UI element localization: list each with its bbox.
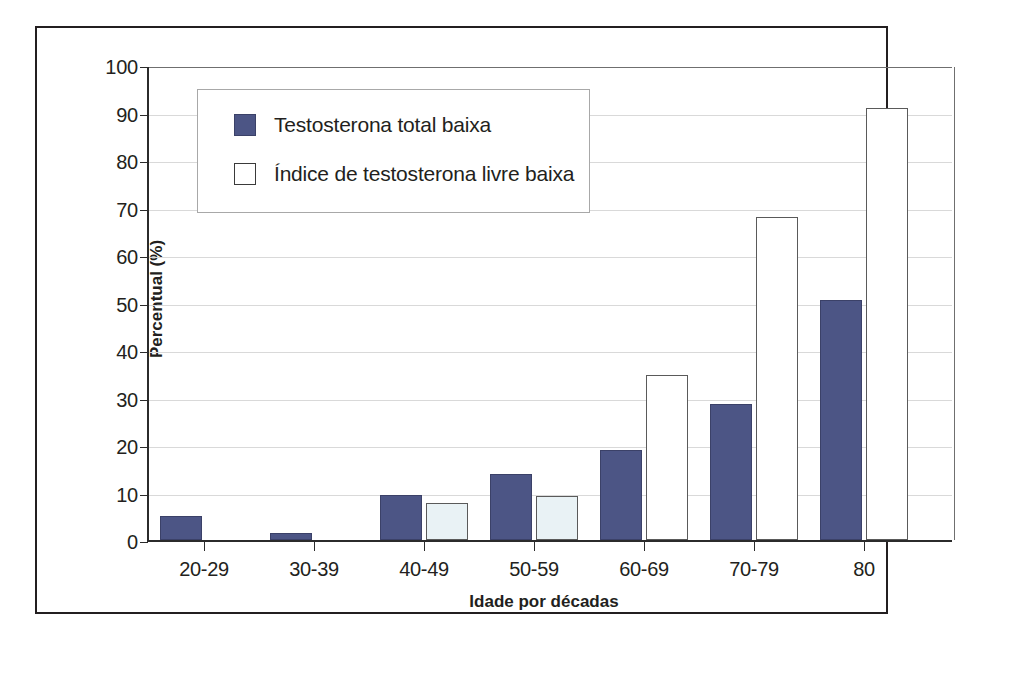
plot-right-edge	[954, 67, 955, 540]
y-tick-label: 40	[116, 341, 138, 364]
y-tick-label: 0	[127, 531, 138, 554]
y-tick-mark	[140, 352, 148, 353]
x-tick-mark	[314, 540, 315, 551]
x-tick-label: 50-59	[509, 558, 559, 581]
y-tick-mark	[140, 495, 148, 496]
y-tick-mark	[140, 542, 148, 543]
x-tick-label: 20-29	[179, 558, 229, 581]
x-tick-mark	[754, 540, 755, 551]
y-tick-label: 80	[116, 151, 138, 174]
chart-legend: Testosterona total baixa Índice de testo…	[197, 89, 590, 213]
y-tick-label: 90	[116, 103, 138, 126]
y-tick-mark	[140, 210, 148, 211]
x-axis-title: Idade por décadas	[149, 592, 939, 612]
legend-swatch-total	[234, 114, 256, 136]
bar-70-79-series-1	[756, 217, 798, 540]
x-tick-label: 30-39	[289, 558, 339, 581]
bar-50-59-series-0	[490, 474, 532, 541]
y-tick-mark	[140, 67, 148, 68]
legend-label-total: Testosterona total baixa	[274, 113, 491, 137]
x-tick-label: 60-69	[619, 558, 669, 581]
y-tick-mark	[140, 305, 148, 306]
legend-swatch-free	[234, 163, 256, 185]
bar-60-69-series-1	[646, 375, 688, 540]
bar-60-69-series-0	[600, 450, 642, 540]
bar-70-79-series-0	[710, 404, 752, 540]
x-tick-mark	[534, 540, 535, 551]
x-tick-mark	[204, 540, 205, 551]
legend-entry-free: Índice de testosterona livre baixa	[234, 162, 574, 186]
y-tick-label: 50	[116, 293, 138, 316]
y-tick-label: 70	[116, 198, 138, 221]
bar-40-49-series-0	[380, 495, 422, 540]
y-tick-mark	[140, 257, 148, 258]
gridline	[149, 257, 952, 258]
y-tick-label: 30	[116, 388, 138, 411]
bar-40-49-series-1	[426, 503, 468, 540]
y-tick-mark	[140, 162, 148, 163]
bar-80-series-1	[866, 108, 908, 540]
y-tick-label: 10	[116, 483, 138, 506]
x-tick-label: 80	[853, 558, 875, 581]
y-tick-label: 60	[116, 246, 138, 269]
y-tick-label: 20	[116, 436, 138, 459]
legend-label-free: Índice de testosterona livre baixa	[274, 162, 574, 186]
y-tick-label: 100	[105, 56, 138, 79]
x-tick-mark	[424, 540, 425, 551]
y-tick-mark	[140, 447, 148, 448]
bar-30-39-series-0	[270, 533, 312, 540]
figure-frame: Percentual (%) Idade por décadas Testost…	[35, 26, 888, 614]
bar-80-series-0	[820, 300, 862, 540]
x-tick-label: 40-49	[399, 558, 449, 581]
x-tick-mark	[644, 540, 645, 551]
y-tick-mark	[140, 115, 148, 116]
legend-entry-total: Testosterona total baixa	[234, 113, 491, 137]
plot-area: Percentual (%) Idade por décadas Testost…	[147, 67, 952, 542]
bar-50-59-series-1	[536, 496, 578, 540]
x-tick-mark	[864, 540, 865, 551]
bar-20-29-series-0	[160, 516, 202, 540]
y-tick-mark	[140, 400, 148, 401]
gridline	[149, 67, 952, 68]
x-tick-label: 70-79	[729, 558, 779, 581]
